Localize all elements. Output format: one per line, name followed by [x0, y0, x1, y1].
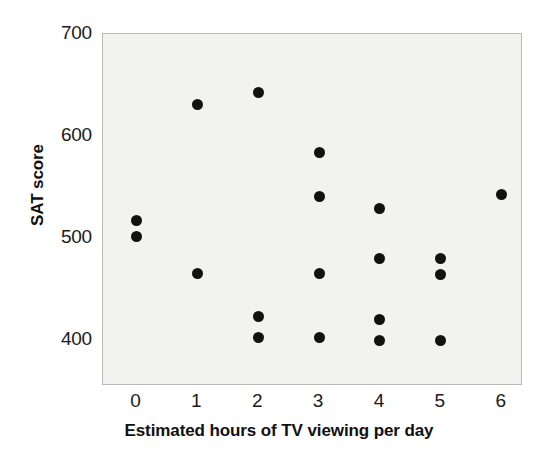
data-point: [192, 268, 203, 279]
x-tick-label: 2: [252, 390, 263, 412]
x-tick-label: 6: [495, 390, 506, 412]
x-tick-label: 0: [130, 390, 141, 412]
y-tick-label: 500: [61, 226, 92, 248]
data-point: [435, 253, 446, 264]
data-point: [253, 311, 264, 322]
data-point: [314, 332, 325, 343]
y-tick-label: 600: [61, 124, 92, 146]
data-point: [435, 335, 446, 346]
y-axis-title: SAT score: [28, 105, 48, 265]
scatter-plot-figure: 400500600700 SAT score 0123456 Estimated…: [0, 0, 558, 471]
x-tick-label: 3: [313, 390, 324, 412]
data-point: [374, 203, 385, 214]
x-axis-tick-labels: 0123456: [0, 390, 558, 418]
data-point: [374, 314, 385, 325]
x-tick-label: 4: [374, 390, 385, 412]
data-point: [314, 147, 325, 158]
x-tick-label: 5: [435, 390, 446, 412]
data-point: [192, 99, 203, 110]
y-tick-label: 400: [61, 328, 92, 350]
data-point: [314, 191, 325, 202]
data-point: [253, 332, 264, 343]
data-point: [131, 215, 142, 226]
y-tick-label: 700: [61, 22, 92, 44]
data-point: [435, 269, 446, 280]
data-point: [374, 253, 385, 264]
data-point: [496, 189, 507, 200]
data-point: [131, 231, 142, 242]
x-tick-label: 1: [191, 390, 202, 412]
x-axis-title: Estimated hours of TV viewing per day: [0, 421, 558, 441]
data-point: [253, 87, 264, 98]
data-point: [314, 268, 325, 279]
plot-area: [102, 33, 522, 385]
data-point: [374, 335, 385, 346]
